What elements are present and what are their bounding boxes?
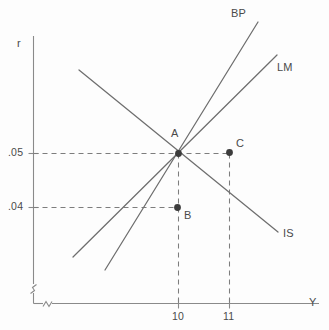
curves-group — [73, 22, 278, 270]
x-axis-label: Y — [309, 297, 317, 308]
axes-group — [34, 36, 320, 304]
lm-curve-label: LM — [277, 62, 293, 73]
point-b-label: B — [184, 210, 192, 221]
y-tick-label-05: .05 — [8, 147, 23, 158]
x-tick-label-10: 10 — [172, 311, 184, 322]
is-lm-bp-chart: r Y .05 .04 10 11 BP LM IS A B C — [0, 0, 329, 330]
x-tick-label-11: 11 — [223, 311, 234, 322]
y-axis-label: r — [17, 38, 21, 49]
point-c-label: C — [236, 138, 244, 149]
x-axis-break-icon — [43, 302, 52, 307]
y-axis-break-icon — [31, 285, 37, 294]
bp-curve-label: BP — [231, 8, 246, 19]
y-tick-label-04: .04 — [8, 201, 23, 212]
point-a-label: A — [171, 128, 179, 139]
point-b-marker — [174, 204, 181, 211]
data-points — [174, 149, 233, 211]
is-curve-label: IS — [283, 228, 294, 239]
point-a-marker — [175, 150, 182, 157]
chart-canvas — [0, 0, 329, 330]
guide-lines — [34, 154, 230, 304]
point-c-marker — [226, 149, 233, 156]
